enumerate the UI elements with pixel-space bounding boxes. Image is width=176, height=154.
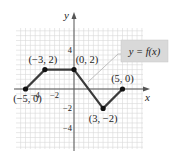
y-axis-arrow-icon — [72, 12, 77, 19]
point-label: (3, −2) — [89, 113, 118, 125]
y-tick-label: −2 — [63, 103, 72, 113]
point-label: (−5, 0) — [13, 93, 42, 105]
point-marker — [101, 106, 106, 111]
x-axis-label: x — [144, 91, 150, 103]
y-axis-label: y — [63, 9, 69, 21]
function-label-box: y = f(x) — [121, 40, 168, 62]
point-marker — [23, 86, 28, 91]
function-label: y = f(x) — [128, 46, 161, 58]
point-label: (−3, 2) — [29, 54, 58, 66]
point-marker — [120, 86, 125, 91]
point-label: (0, 2) — [76, 54, 99, 66]
point-marker — [42, 67, 47, 72]
point-marker — [71, 67, 76, 72]
y-tick-label: −4 — [63, 123, 73, 133]
function-graph: x y −4−24−2−4 (−5, 0)(−3, 2)(0, 2)(3, −2… — [0, 0, 176, 154]
x-tick-label: −2 — [50, 90, 59, 100]
point-label: (5, 0) — [111, 73, 134, 85]
